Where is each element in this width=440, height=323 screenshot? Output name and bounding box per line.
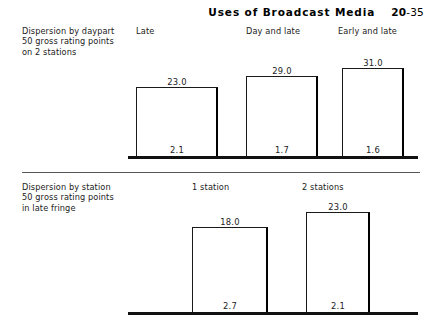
group-label-day-and-late: Day and late [246,26,300,36]
page-header: Uses of Broadcast Media 20-35 [208,6,424,18]
group-label-early-and-late: Early and late [338,26,397,36]
section-caption-daypart: Dispersion by daypart 50 gross rating po… [22,26,142,57]
bar-top-value-1-station: 18.0 [192,217,268,227]
bar-base-value-early-and-late: 1.6 [342,145,404,155]
bar-top-value-2-stations: 23.0 [306,202,370,212]
bar-2-stations [306,212,370,313]
figure-page: Uses of Broadcast Media 20-35 Dispersion… [0,0,440,323]
bar-top-value-early-and-late: 31.0 [342,58,404,68]
page-number-chapter: 20 [391,6,406,18]
bar-base-value-day-and-late: 1.7 [246,145,318,155]
group-label-2-stations: 2 stations [302,182,344,192]
page-number-suffix: -35 [406,6,424,18]
bar-base-value-1-station: 2.7 [192,301,268,311]
bar-top-value-late: 23.0 [136,77,218,87]
baseline-daypart [128,156,418,159]
bar-base-value-late: 2.1 [136,145,218,155]
group-label-late: Late [136,26,154,36]
baseline-station [128,312,418,315]
bar-early-and-late [342,68,404,157]
page-title: Uses of Broadcast Media [208,6,375,18]
group-label-1-station: 1 station [192,182,229,192]
section-caption-station: Dispersion by station 50 gross rating po… [22,182,142,213]
bar-base-value-2-stations: 2.1 [306,301,370,311]
bar-top-value-day-and-late: 29.0 [246,66,318,76]
section-divider [22,172,420,173]
page-number: 20-35 [391,6,424,18]
